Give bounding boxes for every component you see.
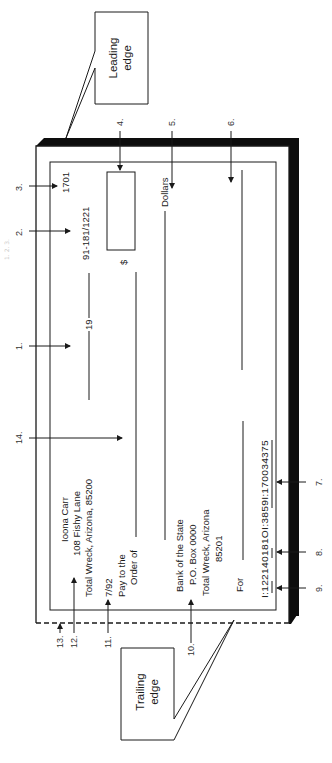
trailing-edge-line1: Trailing	[134, 673, 146, 710]
dollars-label: Dollars	[159, 177, 170, 207]
marker-13: 13.	[55, 635, 65, 648]
marker-9: 9.	[314, 584, 324, 592]
memo-label: For	[234, 578, 245, 592]
marker-4: 4.	[115, 118, 125, 126]
trailing-edge-callout: Trailing edge	[121, 620, 234, 740]
check-number: 1701	[60, 172, 71, 193]
marker-6: 6.	[226, 118, 236, 126]
bank-name: Bank of the State	[174, 519, 185, 592]
marker-3: 3.	[14, 183, 24, 191]
marker-5: 5.	[167, 118, 177, 126]
routing-fraction: 91-181/1221	[80, 207, 91, 260]
marker-2: 2.	[14, 228, 24, 236]
check-diagram: 1. 2. 3. 1701 91-181/1221 19	[0, 0, 332, 763]
account-opened-date: 7/92	[103, 579, 114, 598]
leading-edge-callout: Leading edge	[66, 12, 148, 138]
marker-1: 1.	[14, 342, 24, 350]
marker-11: 11.	[103, 636, 113, 648]
check-shadow-top	[36, 138, 298, 146]
trailing-edge-line2: edge	[148, 679, 160, 705]
amount-box[interactable]	[107, 172, 135, 250]
date-prefix: 19	[83, 319, 94, 330]
marker-8: 8.	[314, 548, 324, 556]
leading-edge-line2: edge	[121, 45, 133, 71]
bank-zip: 85201	[213, 536, 224, 562]
drawer-city: Total Wreck, Arizona, 85200	[83, 479, 94, 597]
pay-to-label: Pay to the	[116, 554, 127, 597]
drawer-name: Ioona Carr	[59, 497, 70, 542]
leading-edge-line1: Leading	[107, 38, 119, 79]
order-of-label: Order of	[128, 550, 139, 585]
diagram-canvas: 1. 2. 3. 1701 91-181/1221 19	[0, 0, 332, 763]
micr-line: I:122140181OI:3859I:170034375	[260, 440, 270, 598]
marker-10: 10.	[186, 643, 196, 656]
check: 1701 91-181/1221 19 $ Dollars Ioona Carr…	[36, 138, 299, 624]
drawer-street: 108 Fishy Lane	[71, 491, 82, 556]
bank-po-box: P.O. Box 0000	[187, 524, 198, 585]
margin-caption: 1. 2. 3.	[3, 239, 10, 260]
check-shadow-right	[289, 138, 299, 616]
bank-city: Total Wreck, Arizona	[200, 509, 211, 596]
marker-12: 12.	[69, 635, 79, 648]
marker-7: 7.	[314, 478, 324, 486]
dollar-sign: $	[118, 259, 129, 265]
marker-14: 14.	[14, 431, 24, 444]
